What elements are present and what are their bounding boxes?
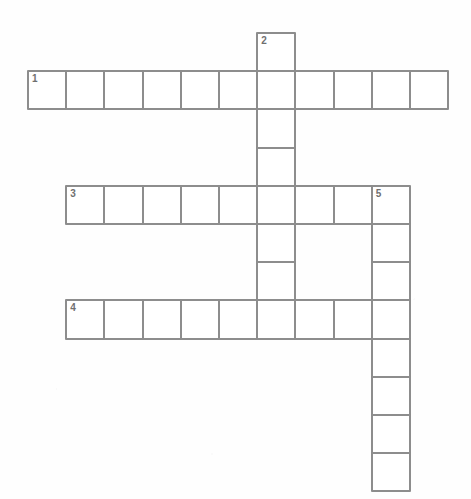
- crossword-cell[interactable]: [256, 70, 296, 110]
- crossword-cell[interactable]: [256, 223, 296, 263]
- crossword-cell[interactable]: [180, 299, 220, 339]
- crossword-cell[interactable]: [371, 452, 411, 492]
- crossword-cell-start-5[interactable]: 5: [371, 185, 411, 225]
- crossword-cell[interactable]: [256, 261, 296, 301]
- crossword-cell[interactable]: [371, 70, 411, 110]
- crossword-cell[interactable]: [256, 185, 296, 225]
- crossword-cell[interactable]: [371, 414, 411, 454]
- crossword-cell[interactable]: [103, 185, 143, 225]
- crossword-cell-start-1[interactable]: 1: [27, 70, 67, 110]
- crossword-cell[interactable]: [409, 70, 449, 110]
- crossword-cell[interactable]: [142, 70, 182, 110]
- crossword-cell[interactable]: [256, 147, 296, 187]
- crossword-cell[interactable]: [218, 299, 258, 339]
- crossword-cell[interactable]: [294, 185, 334, 225]
- crossword-cell-start-4[interactable]: 4: [65, 299, 105, 339]
- crossword-cell[interactable]: [180, 185, 220, 225]
- crossword-cell[interactable]: [333, 185, 373, 225]
- crossword-cell[interactable]: [371, 338, 411, 378]
- crossword-cell[interactable]: [333, 299, 373, 339]
- crossword-cell[interactable]: [371, 223, 411, 263]
- clue-number-2: 2: [261, 35, 267, 46]
- crossword-cell[interactable]: [218, 185, 258, 225]
- clue-number-1: 1: [32, 73, 38, 84]
- clue-number-4: 4: [70, 302, 76, 313]
- crossword-cell[interactable]: [103, 299, 143, 339]
- crossword-cell[interactable]: [256, 299, 296, 339]
- crossword-cell[interactable]: [180, 70, 220, 110]
- crossword-cell[interactable]: [371, 376, 411, 416]
- crossword-cell[interactable]: [65, 70, 105, 110]
- crossword-cell-start-2[interactable]: 2: [256, 32, 296, 72]
- crossword-cell[interactable]: [256, 108, 296, 148]
- crossword-cell[interactable]: [142, 185, 182, 225]
- clue-number-5: 5: [376, 188, 382, 199]
- clue-number-3: 3: [70, 188, 76, 199]
- crossword-cell[interactable]: [294, 70, 334, 110]
- crossword-cell[interactable]: [333, 70, 373, 110]
- crossword-cell-start-3[interactable]: 3: [65, 185, 105, 225]
- crossword-cell[interactable]: [294, 299, 334, 339]
- crossword-cell[interactable]: [218, 70, 258, 110]
- crossword-puzzle: 21354: [0, 0, 471, 499]
- crossword-cell[interactable]: [142, 299, 182, 339]
- crossword-cell[interactable]: [103, 70, 143, 110]
- crossword-cell[interactable]: [371, 261, 411, 301]
- crossword-cell[interactable]: [371, 299, 411, 339]
